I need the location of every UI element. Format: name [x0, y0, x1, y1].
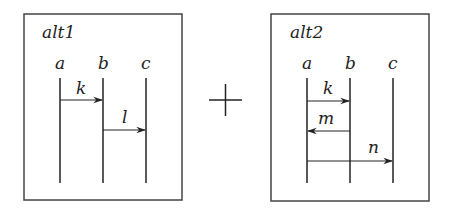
lifeline-label-b: b	[345, 53, 356, 73]
lifeline-label-c: c	[388, 53, 398, 73]
message-label-n: n	[368, 137, 379, 157]
message-label-l: l	[122, 107, 127, 127]
message-label-k: k	[323, 78, 333, 98]
diagram-canvas: alt1 a b c k l alt2 a b c k m n	[0, 0, 450, 212]
lifeline-label-a: a	[302, 53, 312, 73]
message-label-m: m	[318, 108, 334, 128]
frame-alt1: alt1 a b c k l	[24, 14, 182, 200]
lifeline-label-b: b	[98, 53, 109, 73]
frame-alt2: alt2 a b c k m n	[271, 14, 429, 201]
frame-title: alt1	[42, 22, 75, 42]
plus-operator-icon	[209, 84, 242, 116]
lifeline-label-a: a	[55, 53, 65, 73]
message-label-k: k	[76, 78, 86, 98]
frame-title: alt2	[290, 22, 323, 42]
lifeline-label-c: c	[141, 53, 151, 73]
